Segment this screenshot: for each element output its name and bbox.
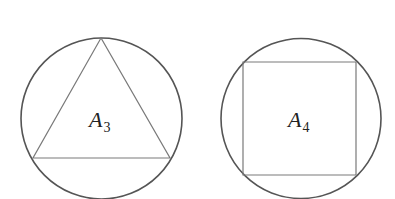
figure-triangle-in-circle: A3 xyxy=(21,38,182,199)
inscribed-triangle xyxy=(33,38,170,158)
label-a4: A4 xyxy=(286,107,309,135)
inscribed-polygons-diagram: A3 A4 xyxy=(0,0,395,199)
label-a3: A3 xyxy=(87,107,110,135)
figure-square-in-circle: A4 xyxy=(221,39,381,199)
